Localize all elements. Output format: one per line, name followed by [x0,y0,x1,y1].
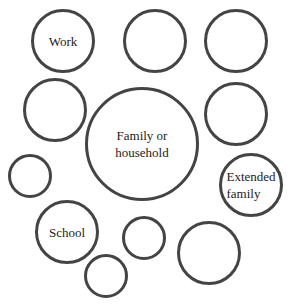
school-circle: School [35,200,99,264]
extended-family-circle: Extended family [219,153,283,217]
family-household-circle: Family or household [85,87,199,201]
family-label-line1: Family or [117,127,168,144]
empty-circle-small-left [8,154,52,198]
extended-family-label-line2: family [226,185,260,202]
empty-circle-right-middle [204,82,268,146]
school-label: School [49,224,85,241]
extended-family-label-line1: Extended [226,168,275,185]
empty-circle-bottom-right [177,221,241,285]
empty-circle-top-middle [123,9,187,73]
work-label: Work [49,33,78,50]
work-circle: Work [31,9,95,73]
empty-circle-small-center [122,216,166,260]
family-label-line2: household [115,144,168,161]
empty-circle-left-middle [23,78,87,142]
empty-circle-bottom-small [84,254,128,298]
empty-circle-top-right [204,9,268,73]
